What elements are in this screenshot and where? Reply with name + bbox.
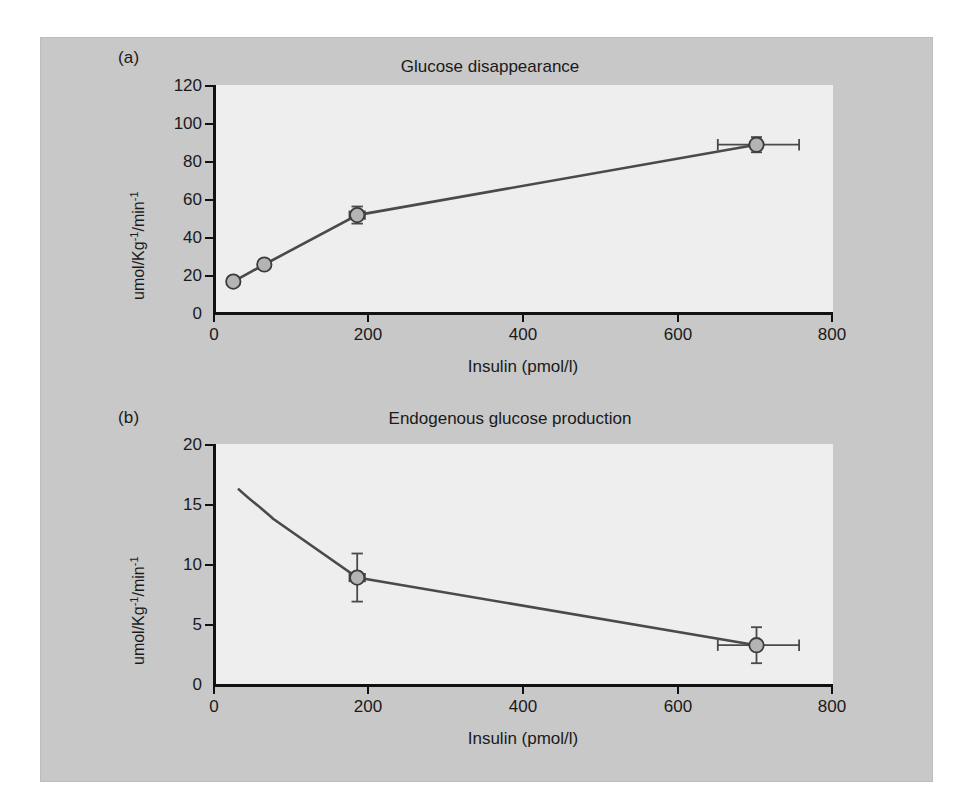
- panel-b-series-overlay: [0, 0, 967, 802]
- figure-canvas: (a) Glucose disappearance umol/Kg-1/min-…: [0, 0, 967, 802]
- panel-b-data-line: [238, 489, 757, 646]
